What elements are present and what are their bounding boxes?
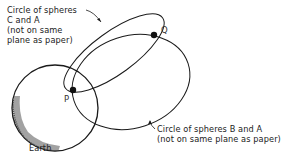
label-earth: Earth	[29, 143, 51, 153]
label-circle-b-a-line2: (not on same plane as paper)	[157, 134, 281, 144]
arrowhead-b-a	[148, 120, 151, 124]
label-point-q: Q	[161, 25, 168, 35]
label-circle-c-a-line2: C and A	[7, 15, 40, 25]
arrowhead-c-a	[97, 18, 101, 22]
label-circle-b-a-line1: Circle of spheres B and A	[157, 124, 262, 134]
label-circle-c-a-line1: Circle of spheres	[7, 5, 77, 15]
point-p-dot	[70, 87, 76, 93]
label-circle-c-a-line4: plane as paper)	[7, 35, 73, 45]
label-point-p: P	[64, 94, 69, 104]
earth-circle	[12, 65, 98, 152]
point-q-dot	[151, 32, 157, 38]
label-circle-c-a-line3: (not on same	[7, 25, 63, 35]
